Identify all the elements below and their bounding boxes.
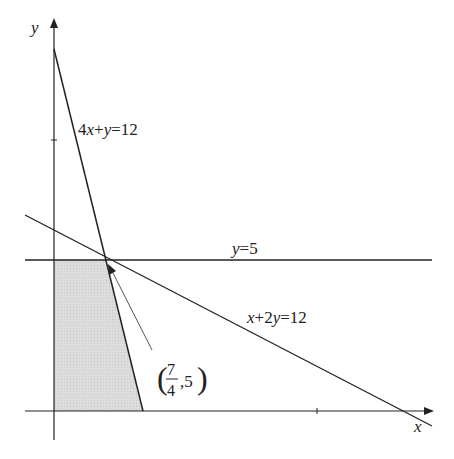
x-axis-label: x (413, 417, 422, 436)
feasible-region (54, 260, 143, 411)
label-x-plus-2y: x+2y=12 (246, 308, 307, 327)
intersection-point-label: ( 7 4 ,5 ) (157, 360, 208, 399)
linear-programming-diagram: y x 4x+y=12 y=5 x+2y=12 ( 7 4 ,5 ) (0, 0, 454, 459)
y-axis-label: y (29, 18, 39, 37)
y-axis-arrow-icon (50, 18, 58, 28)
fraction-numerator: 7 (167, 361, 175, 378)
x-axis-arrow-icon (424, 407, 434, 415)
label-4x-plus-y: 4x+y=12 (78, 120, 138, 139)
close-paren: ) (197, 360, 208, 396)
pointer-arrow-icon (108, 264, 116, 275)
point-y-value: ,5 (180, 372, 193, 391)
label-y-equals-5: y=5 (230, 239, 258, 258)
fraction-denominator: 4 (167, 382, 175, 399)
